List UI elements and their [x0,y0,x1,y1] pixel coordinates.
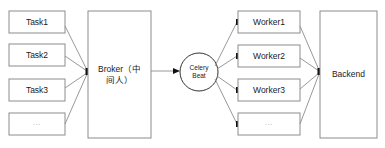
backend-box[interactable] [320,11,377,138]
worker-to-backend-edges [300,26,319,124]
diagram-svg [0,0,385,148]
broker-to-beat-edge [151,68,180,74]
edge-worker1-backend [300,26,319,70]
edge-taskmore-broker [65,74,87,124]
task-box-3[interactable] [9,79,65,101]
worker-input-arrowheads [236,19,240,127]
edge-beat-worker3 [217,76,237,90]
broker-box[interactable] [88,11,151,138]
celery-beat-circle[interactable] [180,53,218,91]
edge-beat-worker1 [215,22,237,66]
worker-box-1[interactable] [238,11,300,33]
diagram-canvas: Task1 Task2 Task3 ... Broker（中 间人） Celer… [0,0,385,148]
worker-box-more[interactable] [238,113,300,135]
task-box-2[interactable] [9,44,65,66]
edge-beat-workermore [215,79,237,124]
task-box-1[interactable] [9,11,65,33]
worker-boxes [238,11,300,135]
worker-box-3[interactable] [238,79,300,101]
edge-beat-worker2 [217,56,237,69]
producer-boxes [9,11,65,135]
task-box-more[interactable] [9,113,65,135]
task-to-broker-edges [65,26,87,124]
worker-box-2[interactable] [238,45,300,67]
arrowhead-beat-input [173,68,180,74]
